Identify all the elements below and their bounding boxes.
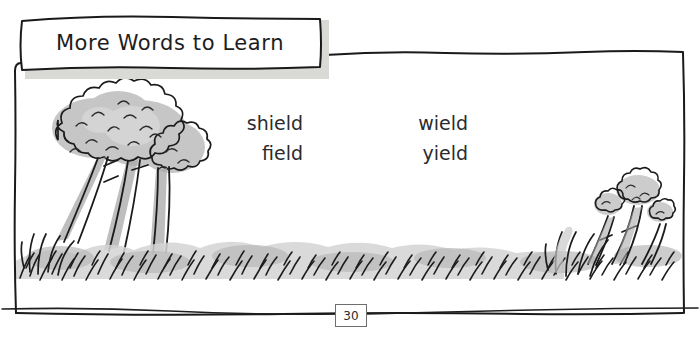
page-title: More Words to Learn	[18, 13, 322, 72]
word-field: field	[262, 140, 303, 166]
word-yield: yield	[422, 140, 468, 166]
page-canvas: More Words to Learn shield field wield y…	[0, 0, 700, 337]
word-list: shield field wield yield	[200, 110, 500, 166]
word-wield: wield	[418, 110, 468, 136]
word-column-1: shield field	[200, 110, 303, 166]
scene-group	[14, 78, 682, 280]
frame-left-edge	[15, 71, 16, 313]
frame-right-edge	[683, 53, 684, 313]
page-number: 30	[335, 304, 367, 327]
frame-top-edge	[325, 51, 683, 55]
word-column-2: wield yield	[365, 110, 468, 166]
word-shield: shield	[247, 110, 303, 136]
